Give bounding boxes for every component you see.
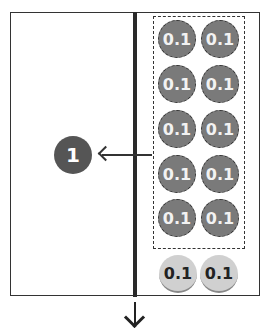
grouped-coin: 0.1 <box>158 65 196 103</box>
arrow-down-icon <box>124 307 145 328</box>
grouped-coin: 0.1 <box>201 110 239 148</box>
grouped-coin: 0.1 <box>158 110 196 148</box>
grouped-coin: 0.1 <box>158 155 196 193</box>
grouped-coin: 0.1 <box>201 20 239 58</box>
grouped-coin: 0.1 <box>201 155 239 193</box>
grouped-coin: 0.1 <box>201 65 239 103</box>
grouped-coin: 0.1 <box>201 199 239 237</box>
remaining-coin: 0.1 <box>159 255 197 293</box>
grouped-coin: 0.1 <box>158 199 196 237</box>
grouped-coin: 0.1 <box>158 20 196 58</box>
remaining-coin: 0.1 <box>200 255 238 293</box>
result-coin: 1 <box>54 136 92 174</box>
